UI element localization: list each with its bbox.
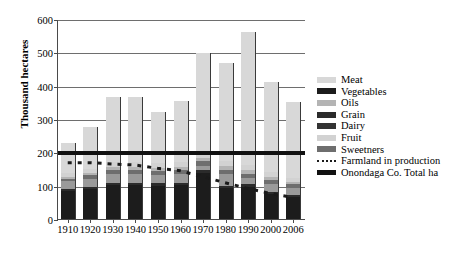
x-tick-mark bbox=[68, 220, 69, 223]
legend: MeatVegetablesOilsGrainDairyFruitSweetne… bbox=[317, 74, 467, 178]
legend-swatch bbox=[317, 77, 336, 83]
legend-item: Oils bbox=[317, 97, 467, 109]
y-tick-label: 200 bbox=[37, 148, 53, 159]
legend-item: Onondaga Co. Total ha bbox=[317, 167, 467, 179]
x-tick-mark bbox=[90, 220, 91, 223]
y-tick-label: 300 bbox=[37, 115, 53, 126]
x-tick-label: 2000 bbox=[260, 224, 281, 235]
legend-swatch bbox=[317, 170, 336, 175]
x-tick-label: 1980 bbox=[215, 224, 236, 235]
legend-label: Grain bbox=[341, 109, 365, 121]
x-tick-mark bbox=[293, 220, 294, 223]
legend-label: Farmland in production bbox=[341, 155, 440, 167]
x-tick-label: 1930 bbox=[102, 224, 123, 235]
x-tick-label: 1990 bbox=[238, 224, 259, 235]
x-tick-label: 1910 bbox=[57, 224, 78, 235]
legend-item: Meat bbox=[317, 74, 467, 86]
x-tick-mark bbox=[113, 220, 114, 223]
legend-swatch bbox=[317, 135, 336, 141]
y-tick-label: 400 bbox=[37, 81, 53, 92]
legend-item: Farmland in production bbox=[317, 155, 467, 167]
x-tick-label: 1960 bbox=[170, 224, 191, 235]
x-tick-mark bbox=[135, 220, 136, 223]
x-tick-mark bbox=[203, 220, 204, 223]
x-tick-label: 1940 bbox=[125, 224, 146, 235]
legend-item: Fruit bbox=[317, 132, 467, 144]
legend-swatch bbox=[317, 112, 336, 118]
legend-label: Meat bbox=[341, 74, 363, 86]
legend-item: Dairy bbox=[317, 120, 467, 132]
x-tick-mark bbox=[181, 220, 182, 223]
legend-swatch bbox=[317, 146, 336, 152]
y-axis-title: Thousand hectares bbox=[18, 4, 30, 164]
legend-label: Fruit bbox=[341, 132, 361, 144]
y-tick-label: 500 bbox=[37, 48, 53, 59]
legend-swatch bbox=[317, 160, 336, 162]
legend-label: Sweetners bbox=[341, 144, 384, 156]
x-tick-mark bbox=[158, 220, 159, 223]
legend-label: Onondaga Co. Total ha bbox=[341, 167, 438, 179]
plot-area: 0100200300400500600 19101920193019401950… bbox=[57, 20, 305, 220]
x-tick-label: 1920 bbox=[80, 224, 101, 235]
legend-item: Vegetables bbox=[317, 86, 467, 98]
legend-label: Dairy bbox=[341, 120, 365, 132]
y-tick-mark bbox=[54, 220, 58, 221]
x-tick-label: 2006 bbox=[283, 224, 304, 235]
y-tick-label: 0 bbox=[48, 215, 53, 226]
x-tick-mark bbox=[248, 220, 249, 223]
x-tick-mark bbox=[271, 220, 272, 223]
legend-swatch bbox=[317, 88, 336, 94]
legend-item: Sweetners bbox=[317, 144, 467, 156]
legend-swatch bbox=[317, 100, 336, 106]
legend-label: Vegetables bbox=[341, 86, 386, 98]
x-tick-mark bbox=[226, 220, 227, 223]
y-tick-label: 100 bbox=[37, 181, 53, 192]
legend-swatch bbox=[317, 123, 336, 129]
y-tick-label: 600 bbox=[37, 15, 53, 26]
chart-figure: Thousand hectares 0100200300400500600 19… bbox=[0, 0, 469, 256]
legend-label: Oils bbox=[341, 97, 359, 109]
x-tick-label: 1950 bbox=[147, 224, 168, 235]
x-tick-label: 1970 bbox=[193, 224, 214, 235]
farmland-in-production-line bbox=[58, 20, 305, 220]
legend-item: Grain bbox=[317, 109, 467, 121]
